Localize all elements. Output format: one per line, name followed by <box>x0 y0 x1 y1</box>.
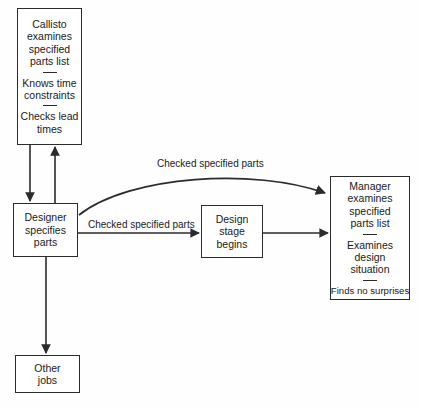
node-callisto: Callisto examines specified parts list K… <box>17 8 82 145</box>
design-stage-line-1: Design <box>216 213 249 225</box>
manager-section3-line-1: Finds no surprises <box>331 285 409 296</box>
callisto-line-2: examines <box>27 30 72 42</box>
designer-line-3: parts <box>34 236 57 248</box>
callisto-line-4: parts list <box>30 55 69 67</box>
edge-label-straight-checked-specified-parts: Checked specified parts <box>88 219 195 230</box>
manager-divider-2 <box>363 280 377 281</box>
node-designer: Designer specifies parts <box>13 203 78 257</box>
other-jobs-line-2: jobs <box>38 374 57 386</box>
edge-label-curved-checked-specified-parts: Checked specified parts <box>157 158 264 169</box>
designer-line-1: Designer <box>24 211 66 223</box>
callisto-section2-line-2: constraints <box>24 89 75 101</box>
manager-section2-line-2: design <box>355 251 386 263</box>
node-manager: Manager examines specified parts list Ex… <box>330 176 410 300</box>
callisto-section3-line-1: Checks lead <box>21 110 79 122</box>
callisto-line-3: specified <box>29 43 70 55</box>
manager-section2-line-3: situation <box>350 263 389 275</box>
other-jobs-line-1: Other <box>34 362 60 374</box>
callisto-section3-line-2: times <box>37 123 62 135</box>
manager-divider-1 <box>363 234 377 235</box>
callisto-divider-2 <box>43 105 57 106</box>
node-design-stage: Design stage begins <box>201 205 263 258</box>
node-other-jobs: Other jobs <box>15 355 80 393</box>
manager-line-2: examines <box>348 192 393 204</box>
designer-line-2: specifies <box>25 224 66 236</box>
diagram-canvas: Callisto examines specified parts list K… <box>0 0 421 408</box>
manager-line-4: parts list <box>350 217 389 229</box>
design-stage-line-2: stage <box>219 225 245 237</box>
manager-line-3: specified <box>349 205 390 217</box>
manager-section2-line-1: Examines <box>347 239 393 251</box>
manager-line-1: Manager <box>349 180 390 192</box>
design-stage-line-3: begins <box>217 238 248 250</box>
callisto-section2-line-1: Knows time <box>22 77 76 89</box>
callisto-divider-1 <box>43 72 57 73</box>
callisto-line-1: Callisto <box>32 18 66 30</box>
